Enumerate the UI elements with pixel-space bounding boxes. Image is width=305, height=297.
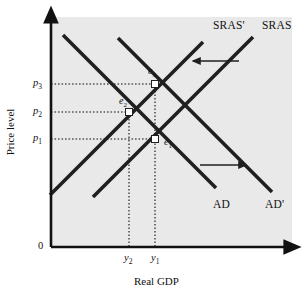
marker-e1 (152, 136, 159, 143)
origin-label: 0 (38, 241, 43, 252)
x-tick-label-y2: y2 (124, 253, 132, 266)
x-tick-y2-sub: 2 (129, 257, 133, 266)
y-tick-p1-sub: 1 (38, 137, 42, 146)
y-tick-label-p2: p2 (33, 106, 42, 119)
y-axis-title-wrap: Price level (2, 92, 18, 172)
equilibrium-label-e1-sub: 1 (168, 142, 172, 150)
marker-e3 (152, 81, 159, 88)
curve-label-ad: AD (213, 199, 230, 211)
x-tick-label-y1: y1 (151, 253, 159, 266)
y-tick-p2-sub: 2 (38, 110, 42, 119)
equilibrium-label-e2-sub: 2 (123, 101, 127, 109)
y-tick-label-p3: p3 (33, 78, 42, 91)
x-tick-y1-sub: 1 (156, 257, 160, 266)
curve-label-sras: SRAS (262, 20, 292, 32)
x-axis-title: Real GDP (134, 276, 179, 287)
marker-e2 (126, 109, 133, 116)
y-tick-p3-sub: 3 (38, 82, 42, 91)
y-tick-label-p1: p1 (33, 133, 42, 146)
plot-background (51, 17, 292, 247)
equilibrium-label-e3: e3 (148, 66, 156, 79)
equilibrium-label-e1: e1 (164, 137, 172, 150)
equilibrium-label-e3-sub: 3 (152, 71, 156, 79)
curve-label-sras-shifted: SRAS' (213, 20, 245, 32)
equilibrium-label-e2: e2 (119, 96, 127, 109)
figure-canvas: SRAS' SRAS AD AD' e3 e2 e1 p3 p2 p1 y2 y… (0, 0, 305, 297)
y-axis-title: Price level (4, 109, 16, 156)
curve-label-ad-shifted: AD' (265, 199, 284, 211)
